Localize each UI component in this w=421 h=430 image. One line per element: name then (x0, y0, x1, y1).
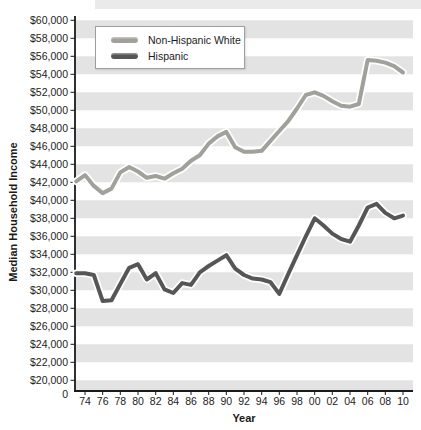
y-tick-label: $24,000 (30, 338, 68, 350)
y-tick-label: $22,000 (30, 356, 68, 368)
grid-band (75, 236, 413, 254)
y-tick-label: $30,000 (30, 284, 68, 296)
legend-item-non-hispanic-white: Non-Hispanic White (111, 34, 244, 46)
x-tick-label: 10 (397, 395, 409, 407)
y-tick-label: $46,000 (30, 140, 68, 152)
grid-band (75, 128, 413, 146)
x-tick-label: 96 (273, 395, 285, 407)
x-tick-label: 92 (238, 395, 250, 407)
x-tick-label: 06 (362, 395, 374, 407)
y-tick-label: $56,000 (30, 50, 68, 62)
x-tick-label: 76 (97, 395, 109, 407)
legend-label-hispanic: Hispanic (148, 50, 188, 62)
x-tick-label: 78 (114, 395, 126, 407)
y-tick-label: $26,000 (30, 320, 68, 332)
x-tick-label: 00 (309, 395, 321, 407)
x-tick-label: 86 (185, 395, 197, 407)
x-tick-label: 84 (167, 395, 179, 407)
y-tick-label: $42,000 (30, 176, 68, 188)
top-cropped-band (95, 0, 421, 9)
grid-band (75, 308, 413, 326)
x-tick-label: 98 (291, 395, 303, 407)
x-tick-label: 04 (344, 395, 356, 407)
y-tick-label: $38,000 (30, 212, 68, 224)
y-tick-label: $52,000 (30, 86, 68, 98)
y-tick-label: $32,000 (30, 266, 68, 278)
y-tick-label: $40,000 (30, 194, 68, 206)
y-tick-label: $36,000 (30, 230, 68, 242)
legend-label-non-hispanic-white: Non-Hispanic White (148, 34, 241, 46)
chart-page: { "chart_data": { "type": "line", "title… (0, 0, 421, 430)
legend-item-hispanic: Hispanic (111, 50, 244, 62)
y-tick-label: $28,000 (30, 302, 68, 314)
y-tick-label: $44,000 (30, 158, 68, 170)
y-tick-label: $58,000 (30, 32, 68, 44)
x-tick-label: 94 (256, 395, 268, 407)
y-axis-title: Median Household Income (7, 142, 19, 281)
x-tick-label: 80 (132, 395, 144, 407)
x-tick-label: 88 (203, 395, 215, 407)
y-tick-label: $20,000 (30, 374, 68, 386)
y-tick-label: $60,000 (30, 14, 68, 26)
y-tick-label: $48,000 (30, 122, 68, 134)
legend-swatch-non-hispanic-white (111, 37, 138, 43)
legend: Non-Hispanic White Hispanic (95, 26, 245, 69)
chart-container: $60,000$58,000$56,000$54,000$52,000$50,0… (0, 0, 421, 430)
x-tick-label: 90 (220, 395, 232, 407)
origin-label: 0 (62, 388, 68, 400)
x-tick-label: 74 (79, 395, 91, 407)
y-tick-label: $54,000 (30, 68, 68, 80)
axis-break-band (75, 380, 413, 391)
y-tick-label: $50,000 (30, 104, 68, 116)
x-tick-label: 02 (326, 395, 338, 407)
x-tick-label: 82 (150, 395, 162, 407)
y-tick-label: $34,000 (30, 248, 68, 260)
x-axis-title: Year (232, 412, 255, 424)
grid-band (75, 344, 413, 362)
x-tick-label: 08 (379, 395, 391, 407)
legend-swatch-hispanic (111, 53, 138, 59)
